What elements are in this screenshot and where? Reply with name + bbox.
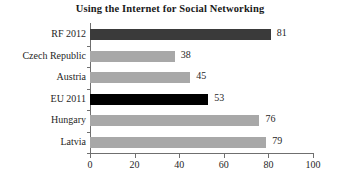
- value-tick: [268, 154, 269, 158]
- value-tick-label: 80: [253, 159, 283, 170]
- bar-row: 81: [90, 24, 313, 46]
- bar-row: 79: [90, 132, 313, 154]
- value-tick-label: 40: [164, 159, 194, 170]
- value-tick: [224, 154, 225, 158]
- value-tick-label: 60: [209, 159, 239, 170]
- bar-value-label: 76: [265, 113, 275, 124]
- bar[interactable]: [90, 72, 190, 83]
- chart-container: Using the Internet for Social Networking…: [0, 0, 340, 180]
- bar-value-label: 38: [181, 49, 191, 60]
- bar-value-label: 79: [272, 135, 282, 146]
- value-tick-label: 0: [75, 159, 105, 170]
- value-tick: [179, 154, 180, 158]
- chart-title: Using the Internet for Social Networking: [0, 3, 340, 14]
- bar[interactable]: [90, 94, 208, 105]
- category-label: Hungary: [0, 114, 86, 125]
- bar[interactable]: [90, 51, 175, 62]
- bar-value-label: 81: [277, 27, 287, 38]
- bar-value-label: 45: [196, 70, 206, 81]
- value-tick-label: 100: [298, 159, 328, 170]
- value-axis-ticks: 020406080100: [90, 154, 314, 176]
- bar[interactable]: [90, 29, 271, 40]
- plot-area: 813845537679: [90, 24, 313, 153]
- bar-row: 76: [90, 110, 313, 132]
- category-label: RF 2012: [0, 28, 86, 39]
- value-tick: [313, 154, 314, 158]
- category-label: Latvia: [0, 136, 86, 147]
- bar-row: 38: [90, 46, 313, 68]
- bar-value-label: 53: [214, 92, 224, 103]
- category-label: Czech Republic: [0, 50, 86, 61]
- bar[interactable]: [90, 115, 259, 126]
- category-label: EU 2011: [0, 93, 86, 104]
- category-label: Austria: [0, 71, 86, 82]
- value-tick-label: 20: [120, 159, 150, 170]
- value-tick: [135, 154, 136, 158]
- bar-row: 53: [90, 89, 313, 111]
- value-tick: [90, 154, 91, 158]
- bar[interactable]: [90, 137, 266, 148]
- bar-row: 45: [90, 67, 313, 89]
- category-axis-labels: RF 2012Czech RepublicAustriaEU 2011Hunga…: [0, 24, 86, 153]
